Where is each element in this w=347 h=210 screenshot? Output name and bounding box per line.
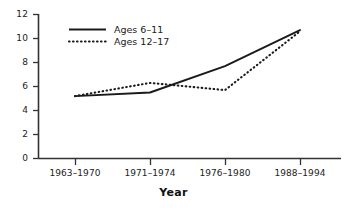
series-line-ages-12-17 xyxy=(75,31,300,96)
y-tick-label-2: 2 xyxy=(2,129,28,139)
x-tick-marks xyxy=(76,159,301,166)
series-line-ages-6-11 xyxy=(75,30,300,96)
chart-plot-area xyxy=(0,0,347,210)
y-tick-label-8: 8 xyxy=(2,57,28,67)
y-tick-marks xyxy=(33,15,39,159)
y-tick-label-4: 4 xyxy=(2,105,28,115)
y-tick-label-6: 6 xyxy=(2,81,28,91)
y-tick-label-10: 10 xyxy=(2,33,28,43)
x-axis-title: Year xyxy=(0,186,347,199)
x-tick-label-4: 1988–1994 xyxy=(264,168,336,178)
line-chart: 12 10 8 6 4 2 0 1963–1970 1971–1974 1976… xyxy=(0,0,347,210)
y-tick-label-0: 0 xyxy=(2,153,28,163)
legend-label-ages-6-11: Ages 6–11 xyxy=(114,24,163,35)
x-tick-label-2: 1971–1974 xyxy=(114,168,186,178)
legend-label-ages-12-17: Ages 12–17 xyxy=(114,36,169,47)
y-tick-label-12: 12 xyxy=(2,9,28,19)
x-tick-label-3: 1976–1980 xyxy=(189,168,261,178)
x-tick-label-1: 1963–1970 xyxy=(39,168,111,178)
